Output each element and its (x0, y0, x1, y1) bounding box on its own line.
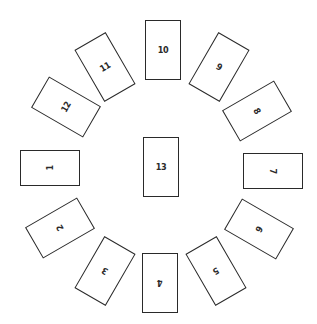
card-label: 8 (251, 106, 262, 115)
card-label: 6 (253, 224, 264, 233)
card-label: 10 (158, 45, 168, 55)
card-label: 11 (98, 60, 112, 74)
card-13: 13 (143, 137, 179, 197)
card-9: 9 (188, 32, 249, 102)
card-label: 13 (156, 162, 166, 172)
card-label: 7 (268, 168, 278, 173)
card-label: 4 (157, 278, 162, 288)
card-label: 1 (45, 165, 55, 170)
card-10: 10 (145, 20, 181, 80)
card-6: 6 (224, 198, 294, 259)
card-label: 12 (59, 100, 73, 114)
card-3: 3 (74, 236, 135, 306)
card-1: 1 (20, 150, 80, 186)
card-label: 3 (100, 265, 109, 276)
card-12: 12 (31, 76, 101, 137)
card-2: 2 (25, 197, 95, 258)
card-label: 2 (54, 223, 65, 232)
card-label: 9 (214, 61, 223, 72)
card-8: 8 (222, 80, 292, 141)
card-4: 4 (142, 253, 178, 313)
card-spread-diagram: 1 2 3 4 5 6 7 8 9 10 11 12 13 (0, 0, 317, 324)
card-5: 5 (185, 236, 246, 306)
card-11: 11 (74, 32, 135, 102)
card-7: 7 (243, 153, 303, 189)
card-label: 5 (211, 265, 220, 276)
